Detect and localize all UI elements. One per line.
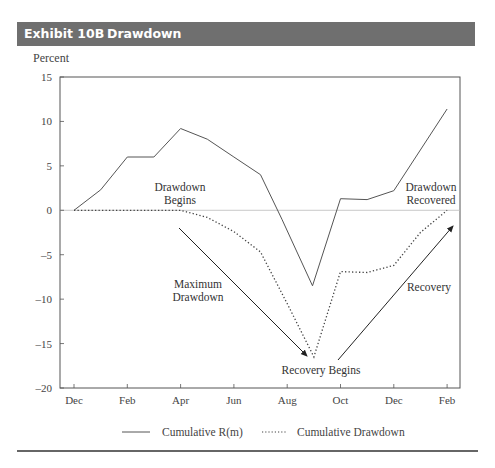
annotation-drawdown-recovered: DrawdownRecovered [405,181,456,206]
annotation-recovery: Recovery [407,281,451,294]
x-tick-label: Feb [119,394,136,406]
chart-axes: 151050–5–10–15–20DecFebAprJunAugOctDecFe… [35,71,461,406]
legend-label-cumulative-drawdown: Cumulative Drawdown [297,426,405,438]
bottom-rule [17,450,478,452]
annotation-maximum-drawdown: MaximumDrawdown [172,278,223,303]
plot-frame [60,77,460,388]
drawdown-chart: 151050–5–10–15–20DecFebAprJunAugOctDecFe… [0,0,495,468]
chart-series [74,109,447,357]
x-tick-label: Apr [172,394,189,406]
recovery-arrow [338,226,453,360]
y-tick-label: 10 [41,115,53,127]
y-tick-label: –10 [35,293,53,305]
y-tick-label: –5 [40,249,53,261]
legend-label-cumulative-return: Cumulative R(m) [162,426,243,439]
cumulative-drawdown-line [74,210,447,357]
annotation-drawdown-begins: DrawdownBegins [154,181,205,207]
y-tick-label: 5 [47,160,53,172]
x-tick-label: Dec [385,394,403,406]
cumulative-return-line [74,109,447,286]
y-tick-label: 15 [41,71,53,83]
x-tick-label: Dec [65,394,83,406]
x-tick-label: Oct [333,394,349,406]
y-tick-label: 0 [47,204,53,216]
chart-legend: Cumulative R(m)Cumulative Drawdown [122,426,405,439]
x-tick-label: Jun [226,394,242,406]
y-tick-label: –20 [35,382,53,394]
x-tick-label: Feb [439,394,456,406]
annotation-recovery-begins: Recovery Begins [282,364,361,377]
x-tick-label: Aug [278,394,297,406]
y-tick-label: –15 [35,338,53,350]
